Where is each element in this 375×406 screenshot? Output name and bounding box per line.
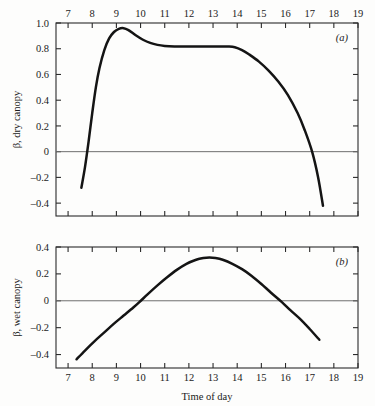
x-tick-label: 11 xyxy=(160,8,170,19)
y-tick-label: 0.6 xyxy=(36,69,49,80)
y-axis-title: β, wet canopy xyxy=(11,277,22,336)
y-tick-label: –0.4 xyxy=(30,198,50,209)
y-tick-label: 1.0 xyxy=(36,18,49,29)
y-axis-title: β, dry canopy xyxy=(11,90,22,148)
x-tick-label: 11 xyxy=(160,372,170,383)
x-tick-label: 19 xyxy=(353,8,364,19)
x-tick-label: 18 xyxy=(329,8,340,19)
x-tick-label: 16 xyxy=(280,8,291,19)
data-curve xyxy=(77,257,320,359)
y-tick-label: –0.2 xyxy=(30,322,49,333)
panel-b: 789101112131415161718190.40.20–0.2–0.4(b… xyxy=(11,242,363,402)
x-tick-label: 10 xyxy=(135,372,146,383)
x-tick-label: 7 xyxy=(65,372,70,383)
plot-frame xyxy=(56,23,358,216)
figure-container: 789101112131415161718191.00.80.60.40.20–… xyxy=(0,0,375,406)
x-tick-label: 15 xyxy=(256,8,267,19)
y-tick-label: 0.2 xyxy=(36,121,49,132)
x-tick-label: 10 xyxy=(135,8,146,19)
x-tick-label: 13 xyxy=(208,8,219,19)
panel-label: (a) xyxy=(336,32,349,44)
y-tick-label: 0.2 xyxy=(36,268,49,279)
x-tick-label: 8 xyxy=(90,372,95,383)
x-tick-label: 7 xyxy=(65,8,70,19)
x-tick-label: 17 xyxy=(304,372,315,383)
x-tick-label: 14 xyxy=(232,8,243,19)
x-tick-label: 9 xyxy=(114,372,119,383)
x-tick-label: 9 xyxy=(114,8,119,19)
data-curve xyxy=(81,28,323,206)
x-tick-label: 8 xyxy=(90,8,95,19)
x-tick-label: 14 xyxy=(232,372,243,383)
x-tick-label: 13 xyxy=(208,372,219,383)
y-tick-label: –0.4 xyxy=(30,349,50,360)
y-tick-label: 0.4 xyxy=(36,95,50,106)
y-tick-label: 0.8 xyxy=(36,43,49,54)
x-axis-title: Time of day xyxy=(182,391,234,402)
y-tick-label: 0 xyxy=(44,146,49,157)
x-tick-label: 19 xyxy=(353,372,364,383)
y-tick-label: –0.2 xyxy=(30,172,49,183)
plot-frame xyxy=(56,247,358,368)
x-tick-label: 12 xyxy=(184,372,195,383)
y-tick-label: 0 xyxy=(44,295,49,306)
x-tick-label: 15 xyxy=(256,372,267,383)
x-tick-label: 18 xyxy=(329,372,340,383)
panel-a: 789101112131415161718191.00.80.60.40.20–… xyxy=(11,8,363,216)
scientific-figure: 789101112131415161718191.00.80.60.40.20–… xyxy=(0,0,375,406)
x-tick-label: 17 xyxy=(304,8,315,19)
panel-label: (b) xyxy=(336,256,349,268)
y-tick-label: 0.4 xyxy=(36,242,50,253)
x-tick-label: 12 xyxy=(184,8,195,19)
x-tick-label: 16 xyxy=(280,372,291,383)
